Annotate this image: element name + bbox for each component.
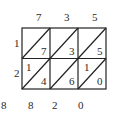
cell-ones-digit: 5	[97, 46, 103, 57]
multiplier-digit: 2	[14, 68, 20, 79]
result-digit: 8	[1, 100, 7, 111]
multiplicand-digit: 3	[64, 12, 70, 23]
cell-ones-digit: 0	[97, 76, 103, 87]
cell-ones-digit: 6	[69, 76, 75, 87]
cell-ones-digit: 4	[41, 76, 47, 87]
cell-tens-digit: 1	[84, 62, 90, 73]
multiplicand-digit: 5	[92, 12, 98, 23]
cell-tens-digit: 1	[26, 62, 32, 73]
cell-ones-digit: 3	[69, 46, 75, 57]
result-digit: 0	[78, 100, 84, 111]
multiplier-digit: 1	[14, 38, 20, 49]
result-digit: 2	[52, 100, 58, 111]
cell-ones-digit: 7	[41, 46, 47, 57]
result-digit: 8	[28, 100, 34, 111]
multiplicand-digit: 7	[36, 12, 42, 23]
